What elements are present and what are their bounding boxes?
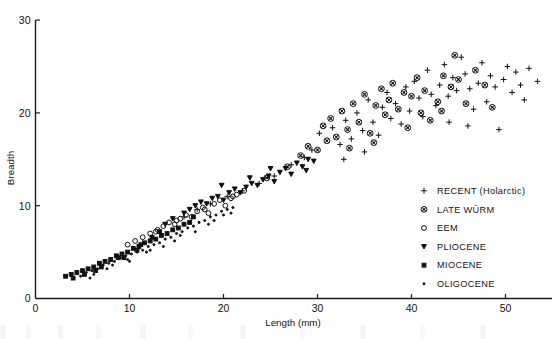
data-point (416, 95, 422, 101)
data-point (488, 73, 494, 79)
data-point (418, 110, 424, 116)
data-point (350, 101, 356, 107)
data-point (298, 153, 304, 159)
data-point (509, 90, 515, 96)
data-point (86, 267, 90, 271)
data-point (232, 187, 237, 191)
data-point (261, 178, 266, 182)
plot-canvas: 01020304050 0102030 Length (mm) Breadth … (0, 0, 560, 339)
series-pliocene (163, 157, 316, 226)
legend-item: EEM (422, 223, 458, 233)
data-point (158, 230, 162, 234)
data-point (345, 127, 351, 133)
data-point (128, 260, 130, 262)
data-point (232, 207, 234, 209)
tiny-dot-marker (423, 283, 425, 285)
data-point (204, 219, 206, 221)
data-point (386, 97, 392, 103)
data-point (89, 277, 91, 279)
x-tick-label: 50 (500, 302, 512, 314)
data-point (147, 245, 149, 247)
y-axis-title: Breadth (5, 151, 16, 185)
data-point (91, 270, 93, 272)
data-point (501, 77, 507, 83)
data-point (272, 180, 277, 184)
legend-item-label: OLIGOCENE (437, 279, 495, 289)
legend-item-label: RECENT (Holarctic) (437, 186, 525, 196)
x-tick-label: 10 (124, 302, 136, 314)
data-point (283, 167, 288, 171)
data-point (489, 104, 495, 110)
data-point (445, 93, 451, 99)
data-point (198, 221, 200, 223)
data-point (473, 67, 479, 73)
data-point (450, 75, 456, 81)
data-point (221, 210, 223, 212)
data-point (496, 127, 502, 133)
data-point (213, 219, 215, 221)
data-point (379, 86, 385, 92)
data-point (215, 214, 217, 216)
y-tick-label: 10 (19, 200, 31, 212)
data-point (526, 66, 532, 72)
data-point (192, 225, 194, 227)
data-point (337, 142, 343, 148)
data-point (162, 245, 164, 247)
data-point (209, 216, 211, 218)
data-point (150, 235, 154, 239)
data-point (422, 88, 428, 94)
data-point (64, 274, 68, 278)
data-point (425, 67, 431, 73)
data-point (311, 159, 316, 163)
legend-item: LATE WÜRM (421, 205, 494, 215)
x-tick-label: 30 (312, 302, 324, 314)
x-axis-title: Length (mm) (265, 317, 321, 328)
open-circle-marker (422, 226, 427, 231)
data-point (376, 132, 382, 138)
y-tick-label: 30 (19, 14, 31, 26)
data-point (171, 228, 175, 232)
data-point (93, 273, 95, 275)
circled-cross-marker (421, 207, 427, 213)
data-point (365, 97, 371, 103)
data-point (103, 259, 107, 263)
data-point (328, 116, 334, 122)
data-point (475, 80, 481, 86)
data-point (362, 149, 368, 155)
data-point (482, 82, 488, 88)
data-point (484, 99, 490, 105)
data-point (109, 258, 113, 262)
data-point (409, 93, 415, 99)
data-point (304, 168, 309, 172)
data-point (428, 92, 434, 98)
plus-marker (421, 188, 427, 194)
data-point (127, 258, 129, 260)
data-point (462, 71, 468, 77)
data-point (145, 251, 147, 253)
data-point (187, 227, 189, 229)
data-point (492, 84, 498, 90)
data-point (230, 212, 232, 214)
data-point (305, 143, 311, 149)
data-point (80, 275, 82, 277)
filled-square-marker (422, 263, 426, 267)
data-point (479, 60, 485, 66)
data-point (133, 239, 138, 244)
data-point (219, 183, 224, 187)
data-point (522, 97, 528, 103)
data-point (454, 88, 460, 94)
legend-item: OLIGOCENE (423, 279, 495, 289)
y-tick-label: 20 (19, 107, 31, 119)
data-point (210, 196, 215, 200)
data-point (149, 249, 151, 251)
data-point (459, 54, 465, 60)
legend-item-label: PLIOCENE (437, 242, 486, 252)
legend-item-label: LATE WÜRM (437, 205, 495, 215)
scatter-plot-figure: 01020304050 0102030 Length (mm) Breadth … (0, 0, 560, 339)
data-point (159, 242, 161, 244)
data-point (142, 249, 144, 251)
data-point (467, 86, 473, 92)
data-point (223, 203, 228, 208)
data-point (175, 232, 177, 234)
legend-item: MIOCENE (422, 260, 482, 270)
